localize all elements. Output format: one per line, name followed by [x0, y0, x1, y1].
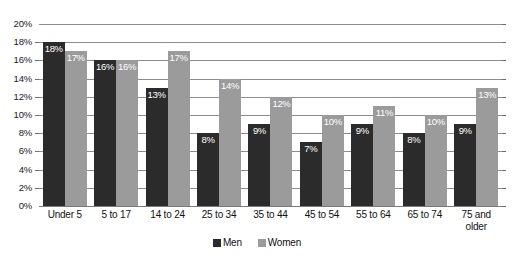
y-axis-tick-label: 4%	[0, 165, 32, 175]
bar-value-label: 8%	[196, 134, 220, 145]
bar-men[interactable]: 9%	[248, 124, 270, 206]
bar-value-label: 9%	[350, 125, 374, 136]
bar-groups: 18%17%16%16%13%17%8%14%9%12%7%10%9%11%8%…	[39, 24, 502, 206]
bar-group: 16%16%	[90, 24, 141, 206]
x-axis-label: 75 and older	[451, 209, 502, 233]
bar-men[interactable]: 18%	[43, 42, 65, 206]
bar-men[interactable]: 13%	[146, 88, 168, 206]
bar-value-label: 10%	[321, 116, 345, 127]
bar-men[interactable]: 8%	[197, 133, 219, 206]
bar-value-label: 17%	[64, 52, 88, 63]
x-axis-category-labels: Under 55 to 1714 to 2425 to 3435 to 4445…	[39, 209, 502, 233]
x-axis-label: 65 to 74	[399, 209, 450, 233]
y-axis-tick-mark-right	[502, 188, 506, 189]
y-axis-tick-mark-right	[502, 170, 506, 171]
y-axis-tick-mark-right	[502, 115, 506, 116]
x-axis-label: 45 to 54	[296, 209, 347, 233]
y-axis-tick-mark-right	[502, 206, 506, 207]
chart-legend: MenWomen	[0, 238, 514, 248]
bar-group: 8%10%	[399, 24, 450, 206]
bar-value-label: 8%	[402, 134, 426, 145]
bar-women[interactable]: 10%	[425, 115, 447, 206]
bar-group: 18%17%	[39, 24, 90, 206]
bar-group: 9%12%	[245, 24, 296, 206]
y-axis-tick-label: 10%	[0, 110, 32, 120]
y-axis-tick-label: 0%	[0, 201, 32, 211]
legend-label: Women	[268, 238, 301, 248]
bar-group: 13%17%	[142, 24, 193, 206]
bar-women[interactable]: 16%	[116, 60, 138, 206]
bar-women[interactable]: 13%	[476, 88, 498, 206]
bar-value-label: 14%	[218, 80, 242, 91]
x-axis-label: 5 to 17	[90, 209, 141, 233]
bar-value-label: 13%	[145, 89, 169, 100]
bar-value-label: 17%	[167, 52, 191, 63]
y-axis-tick-label: 8%	[0, 128, 32, 138]
bar-women[interactable]: 12%	[270, 97, 292, 206]
x-axis-label: 55 to 64	[348, 209, 399, 233]
bar-value-label: 16%	[93, 61, 117, 72]
bar-men[interactable]: 16%	[94, 60, 116, 206]
bar-group: 7%10%	[296, 24, 347, 206]
bar-group: 8%14%	[193, 24, 244, 206]
bar-group: 9%13%	[451, 24, 502, 206]
y-axis-tick-label: 20%	[0, 19, 32, 29]
legend-label: Men	[223, 238, 242, 248]
y-axis-tick-mark-right	[502, 133, 506, 134]
y-axis-tick-mark-right	[502, 79, 506, 80]
y-axis-tick-label: 14%	[0, 74, 32, 84]
bar-women[interactable]: 17%	[168, 51, 190, 206]
bar-value-label: 13%	[475, 89, 499, 100]
bar-value-label: 9%	[247, 125, 271, 136]
y-axis-tick-label: 12%	[0, 92, 32, 102]
x-axis-label: Under 5	[39, 209, 90, 233]
y-axis-tick-label: 18%	[0, 37, 32, 47]
bar-value-label: 12%	[269, 98, 293, 109]
bar-value-label: 9%	[453, 125, 477, 136]
legend-swatch-icon	[258, 239, 266, 247]
plot-wrapper: 0%2%4%6%8%10%12%14%16%18%20% 18%17%16%16…	[0, 0, 514, 215]
y-axis-tick-label: 2%	[0, 183, 32, 193]
bar-men[interactable]: 8%	[403, 133, 425, 206]
bar-value-label: 18%	[42, 43, 66, 54]
x-axis-label: 14 to 24	[142, 209, 193, 233]
bar-chart: 0%2%4%6%8%10%12%14%16%18%20% 18%17%16%16…	[0, 0, 514, 268]
y-axis-tick-mark-right	[502, 97, 506, 98]
legend-item-men[interactable]: Men	[213, 238, 242, 248]
y-axis-tick-mark-right	[502, 24, 506, 25]
bar-value-label: 11%	[372, 107, 396, 118]
bar-women[interactable]: 14%	[219, 79, 241, 206]
y-axis-tick-label: 6%	[0, 146, 32, 156]
gridline	[39, 206, 502, 207]
x-axis-label: 25 to 34	[193, 209, 244, 233]
bar-women[interactable]: 10%	[322, 115, 344, 206]
bar-group: 9%11%	[348, 24, 399, 206]
y-axis-tick-mark-right	[502, 42, 506, 43]
bar-value-label: 16%	[115, 61, 139, 72]
x-axis-label: 35 to 44	[245, 209, 296, 233]
bar-women[interactable]: 17%	[65, 51, 87, 206]
bar-value-label: 10%	[424, 116, 448, 127]
y-axis-tick-label: 16%	[0, 55, 32, 65]
bar-value-label: 7%	[299, 143, 323, 154]
legend-swatch-icon	[213, 239, 221, 247]
y-axis-tick-mark-right	[502, 151, 506, 152]
bar-men[interactable]: 9%	[351, 124, 373, 206]
bar-women[interactable]: 11%	[373, 106, 395, 206]
legend-item-women[interactable]: Women	[258, 238, 301, 248]
bar-men[interactable]: 7%	[300, 142, 322, 206]
bar-men[interactable]: 9%	[454, 124, 476, 206]
y-axis-tick-mark-right	[502, 60, 506, 61]
